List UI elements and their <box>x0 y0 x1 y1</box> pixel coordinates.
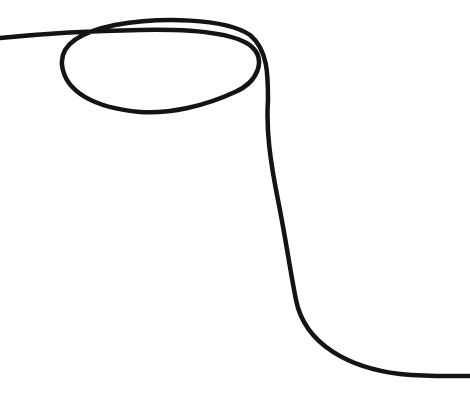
photo-canvas <box>0 0 470 402</box>
cord-drawing <box>0 0 470 402</box>
background <box>0 0 470 402</box>
